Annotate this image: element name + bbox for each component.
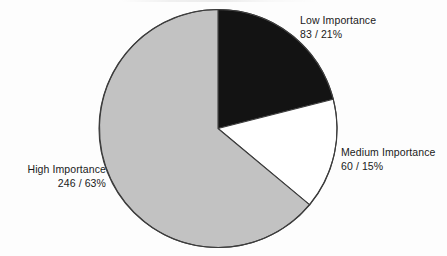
slice-label-medium-importance: Medium Importance 60 / 15% bbox=[341, 146, 436, 173]
slice-label-high-importance: High Importance 246 / 63% bbox=[8, 163, 106, 190]
slice-label-medium-importance-value: 60 / 15% bbox=[341, 160, 436, 174]
slice-label-low-importance-value: 83 / 21% bbox=[300, 28, 376, 42]
slice-label-low-importance: Low Importance 83 / 21% bbox=[300, 14, 376, 41]
slice-label-low-importance-title: Low Importance bbox=[300, 14, 376, 26]
pie-chart-figure: Low Importance 83 / 21% Medium Importanc… bbox=[0, 0, 447, 256]
pie-chart-graphic bbox=[0, 0, 447, 256]
slice-label-high-importance-value: 246 / 63% bbox=[8, 177, 106, 191]
slice-label-medium-importance-title: Medium Importance bbox=[341, 146, 436, 158]
slice-label-high-importance-title: High Importance bbox=[27, 163, 106, 175]
